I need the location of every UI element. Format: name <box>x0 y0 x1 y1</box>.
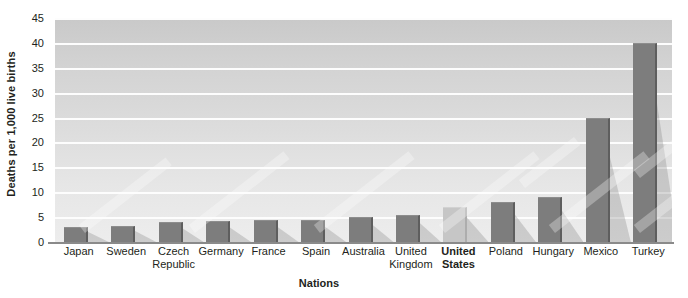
y-axis-title: Deaths per 1,000 live births <box>0 0 22 248</box>
bar <box>349 217 373 242</box>
bar <box>254 220 278 242</box>
bar-shadow <box>324 226 346 242</box>
y-axis-tick-label: 30 <box>32 87 44 98</box>
bar <box>633 43 657 242</box>
plot-area <box>55 18 672 242</box>
bar <box>586 118 610 242</box>
bar-shadow <box>609 152 631 242</box>
bar-shadow <box>561 210 583 242</box>
bar <box>111 226 135 242</box>
bar-column <box>491 18 515 242</box>
bar <box>301 220 325 242</box>
bar-shadow <box>419 222 441 242</box>
bar-shadow <box>466 217 488 242</box>
y-axis-tick-labels: 454035302520151050 <box>24 14 48 242</box>
bar-shadow <box>87 231 109 242</box>
bar-shadow <box>229 227 251 242</box>
y-axis-tick-label: 15 <box>32 162 44 173</box>
x-axis-tick-labels: JapanSwedenCzechRepublicGermanyFranceSpa… <box>55 245 672 277</box>
bar <box>538 197 562 242</box>
bar-column <box>633 18 657 242</box>
bar <box>396 215 420 242</box>
bar-column <box>586 18 610 242</box>
bar-shadow <box>277 226 299 242</box>
x-axis-title: Nations <box>0 277 688 289</box>
y-axis-tick-label: 20 <box>32 137 44 148</box>
bar <box>491 202 515 242</box>
bar-shadow <box>372 224 394 242</box>
y-axis-title-text: Deaths per 1,000 live births <box>5 51 17 196</box>
y-axis-tick-label: 40 <box>32 37 44 48</box>
y-axis-tick-label: 45 <box>32 13 44 24</box>
bar <box>206 221 230 242</box>
bar-column <box>301 18 325 242</box>
y-axis-tick-label: 5 <box>38 212 44 223</box>
y-axis-tick-label: 35 <box>32 62 44 73</box>
y-axis-tick-label: 10 <box>32 187 44 198</box>
bar-shadow <box>656 99 672 242</box>
bar-column <box>254 18 278 242</box>
bar <box>159 222 183 242</box>
bar-shadow <box>134 231 156 242</box>
x-axis-line <box>48 242 674 244</box>
bar <box>64 227 88 242</box>
bar-column <box>538 18 562 242</box>
bar-column <box>111 18 135 242</box>
bar-shadow <box>182 228 204 242</box>
bar-column <box>64 18 88 242</box>
bar-column <box>443 18 467 242</box>
bar-column <box>349 18 373 242</box>
x-axis-title-text: Nations <box>299 277 339 289</box>
bar-column <box>159 18 183 242</box>
bar-chart-figure: Deaths per 1,000 live births 45403530252… <box>0 0 688 298</box>
bar <box>443 207 467 242</box>
x-axis-tick-label: Turkey <box>610 245 686 258</box>
y-axis-tick-label: 25 <box>32 112 44 123</box>
bar-column <box>206 18 230 242</box>
bar-column <box>396 18 420 242</box>
